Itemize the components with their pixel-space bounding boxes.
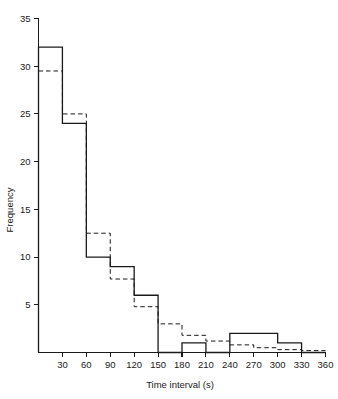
x-tick-label: 300 (270, 359, 286, 370)
y-axis-title: Frequency (4, 187, 15, 232)
histogram-figure: 5101520253035 30609012015018021024027030… (0, 0, 338, 399)
x-tick-label: 90 (105, 359, 116, 370)
x-tick-label: 330 (294, 359, 310, 370)
x-axis-title: Time interval (s) (146, 379, 214, 390)
fitted-curve-series (39, 71, 326, 351)
y-tick-label: 15 (20, 204, 31, 215)
axes (39, 19, 326, 353)
y-tick-label: 30 (20, 61, 31, 72)
x-tick-label: 360 (318, 359, 334, 370)
x-tick-label: 180 (174, 359, 190, 370)
y-axis-ticks: 5101520253035 (20, 13, 39, 310)
y-tick-label: 5 (25, 299, 30, 310)
x-tick-label: 120 (126, 359, 142, 370)
fitted-exponential-step-line (39, 71, 326, 351)
chart-canvas: 5101520253035 30609012015018021024027030… (0, 0, 338, 399)
x-tick-label: 60 (81, 359, 92, 370)
axis-lines (39, 19, 326, 353)
x-axis-ticks: 306090120150180210240270300330360 (57, 353, 333, 371)
y-tick-label: 35 (20, 13, 31, 24)
observed-histogram-series (39, 47, 326, 352)
x-tick-label: 210 (198, 359, 214, 370)
y-tick-label: 10 (20, 251, 31, 262)
x-tick-label: 240 (222, 359, 238, 370)
y-tick-label: 20 (20, 156, 31, 167)
y-tick-label: 25 (20, 108, 31, 119)
x-tick-label: 270 (246, 359, 262, 370)
x-tick-label: 150 (150, 359, 166, 370)
observed-frequency-step-outline (39, 47, 326, 352)
x-tick-label: 30 (57, 359, 68, 370)
